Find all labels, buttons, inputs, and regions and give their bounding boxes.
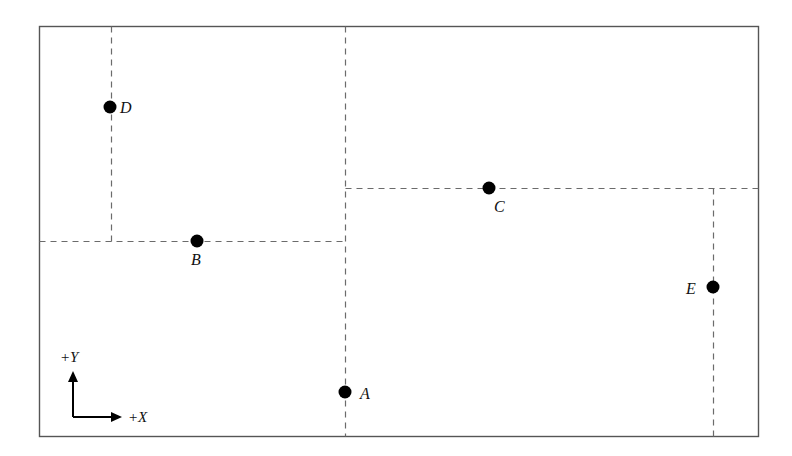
x-axis-arrow-head bbox=[111, 412, 122, 422]
point-d-marker bbox=[104, 101, 117, 114]
point-e-marker bbox=[707, 281, 720, 294]
dashed-guide-lines bbox=[40, 27, 759, 437]
data-point-markers bbox=[104, 101, 720, 399]
figure-svg bbox=[0, 0, 792, 456]
x-axis-label: +X bbox=[128, 410, 147, 425]
point-a-label: A bbox=[360, 386, 370, 402]
point-a-marker bbox=[339, 386, 352, 399]
y-axis-arrow-head bbox=[68, 371, 78, 382]
axis-indicator-arrows bbox=[68, 371, 122, 422]
point-b-label: B bbox=[191, 252, 201, 268]
point-e-label: E bbox=[686, 281, 696, 297]
point-b-marker bbox=[191, 235, 204, 248]
figure-canvas: ABCDE +Y +X bbox=[0, 0, 792, 456]
plot-frame-rect bbox=[40, 27, 759, 437]
point-d-label: D bbox=[120, 100, 132, 116]
point-c-label: C bbox=[494, 199, 505, 215]
plot-frame bbox=[40, 27, 759, 437]
point-c-marker bbox=[483, 182, 496, 195]
y-axis-label: +Y bbox=[60, 350, 78, 365]
